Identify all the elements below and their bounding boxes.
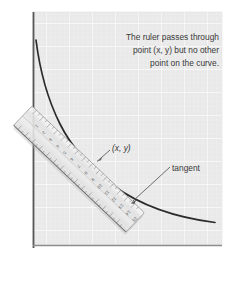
figure-svg: 1 2 3 4 5 6 7 8 9 10 11 12 13 14 15 The … [0,0,239,281]
caption-line-1: The ruler passes through [126,32,219,42]
point-label: (x, y) [112,143,131,153]
figure-container: 1 2 3 4 5 6 7 8 9 10 11 12 13 14 15 The … [0,0,239,281]
caption-line-2: point (x, y) but no other [133,45,219,55]
caption-line-3: point on the curve. [150,58,219,68]
tangent-label: tangent [172,163,201,173]
